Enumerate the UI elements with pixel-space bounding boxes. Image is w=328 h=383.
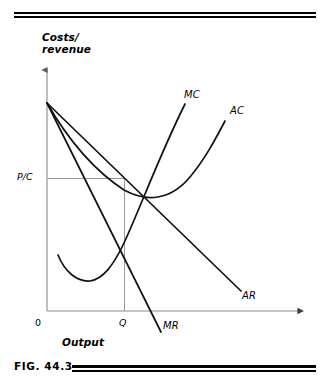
figure-container: Costs/ revenue Output P/C Q 0 MC AC AR M…: [0, 0, 328, 383]
caption-bar-thin: [72, 370, 316, 372]
caption-bar-thick: [72, 365, 316, 368]
quantity-tick-label: Q: [119, 317, 126, 328]
ac-curve-label: AC: [230, 105, 244, 117]
caption-divider-rule: [72, 365, 316, 372]
mr-curve-label: MR: [163, 320, 179, 332]
price-cost-tick-label: P/C: [17, 171, 33, 182]
x-axis-title: Output: [62, 336, 104, 348]
y-axis-title: Costs/ revenue: [42, 31, 91, 56]
mr-curve: [47, 103, 161, 332]
mc-curve-label: MC: [184, 89, 200, 101]
figure-caption-row: FIG. 44.3: [0, 360, 328, 378]
origin-label: 0: [35, 317, 41, 328]
ar-curve-label: AR: [242, 290, 256, 302]
figure-caption: FIG. 44.3: [14, 360, 73, 372]
ac-curve: [47, 103, 225, 198]
